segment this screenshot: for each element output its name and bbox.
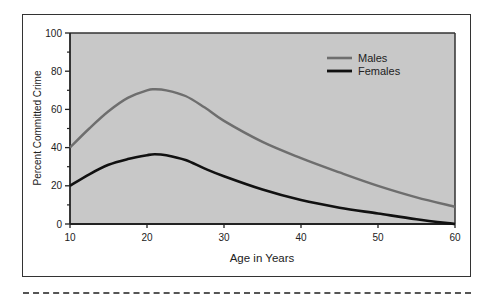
x-tick-label: 50 xyxy=(372,232,384,243)
legend-label-males: Males xyxy=(358,52,388,64)
plot-area xyxy=(70,33,455,224)
x-tick-label: 30 xyxy=(218,232,230,243)
x-tick-label: 20 xyxy=(141,232,153,243)
y-tick-label: 20 xyxy=(51,180,63,191)
legend-label-females: Females xyxy=(358,65,401,77)
x-tick-label: 40 xyxy=(295,232,307,243)
y-axis-title: Percent Committed Crime xyxy=(32,70,43,185)
y-tick-label: 0 xyxy=(56,219,62,230)
x-axis-title: Age in Years xyxy=(230,252,295,264)
x-tick-label: 60 xyxy=(449,232,461,243)
y-tick-label: 100 xyxy=(45,28,62,39)
y-tick-label: 40 xyxy=(51,142,63,153)
y-tick-label: 80 xyxy=(51,66,63,77)
line-chart: 020406080100 102030405060 Males Females … xyxy=(0,0,491,299)
x-axis-ticks: 102030405060 xyxy=(64,224,461,243)
y-axis-ticks: 020406080100 xyxy=(45,28,70,230)
y-tick-label: 60 xyxy=(51,104,63,115)
dashed-divider xyxy=(23,292,471,294)
x-tick-label: 10 xyxy=(64,232,76,243)
